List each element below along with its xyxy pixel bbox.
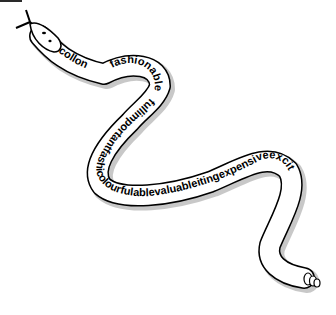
eye-icon (42, 32, 46, 35)
eye-icon (48, 40, 51, 42)
snake-illustration: collon fashionable fullimportantfashicol… (0, 0, 336, 315)
